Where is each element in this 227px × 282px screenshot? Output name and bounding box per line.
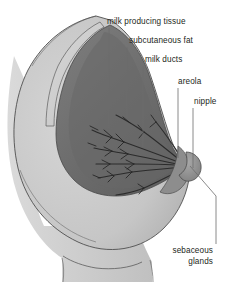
label-subcutaneous-fat: subcutaneous fat [129,36,194,45]
label-areola: areola [178,77,202,86]
label-sebaceous-glands-line1: sebaceous [172,246,213,255]
label-nipple: nipple [194,97,217,106]
label-milk-ducts: milk ducts [145,55,182,64]
label-milk-producing-tissue: milk producing tissue [107,17,186,26]
label-sebaceous-glands-line2: glands [188,257,213,266]
anatomy-figure: milk producing tissue subcutaneous fat m… [0,0,227,282]
